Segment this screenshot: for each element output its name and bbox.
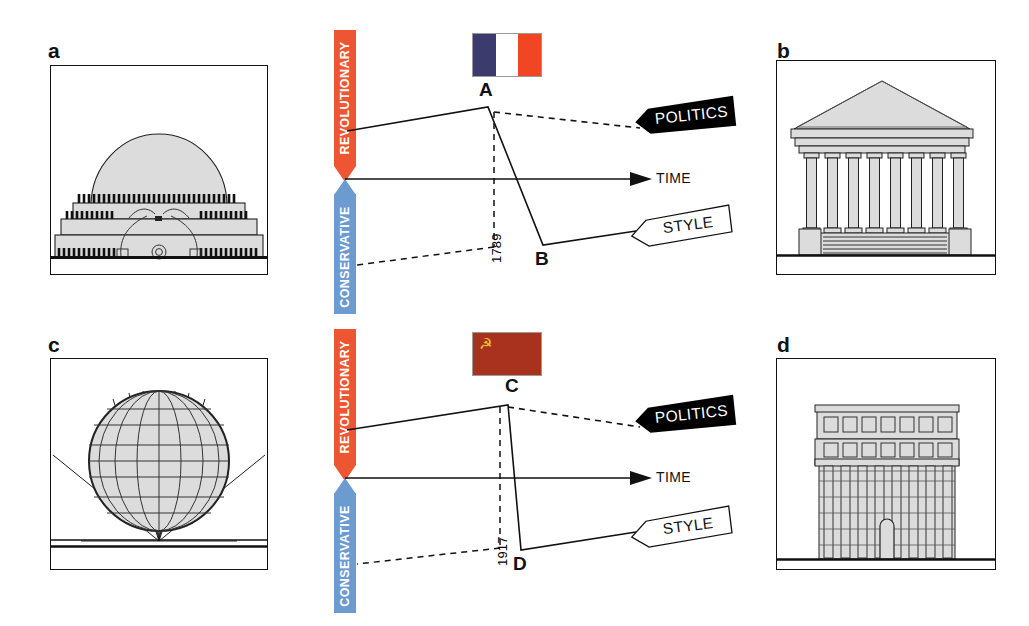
point-label-B: B: [535, 249, 549, 268]
point-label-D: D: [513, 554, 527, 573]
event-year-1789: 1789: [489, 233, 504, 263]
time-axis-label-2: TIME: [656, 469, 691, 485]
point-label-C: C: [505, 376, 519, 395]
chart-lines-2: [0, 313, 1029, 626]
diagram-russian-revolution: REVOLUTIONARY CONSERVATIVE ☭ C D 1917 TI…: [0, 313, 1029, 626]
time-axis-label-1: TIME: [656, 170, 691, 186]
chart-lines-1: [0, 0, 1029, 313]
point-label-A: A: [479, 80, 493, 99]
diagram-french-revolution: REVOLUTIONARY CONSERVATIVE A: [0, 0, 1029, 313]
event-year-1917: 1917: [495, 536, 510, 566]
figure-root: a: [0, 0, 1029, 626]
